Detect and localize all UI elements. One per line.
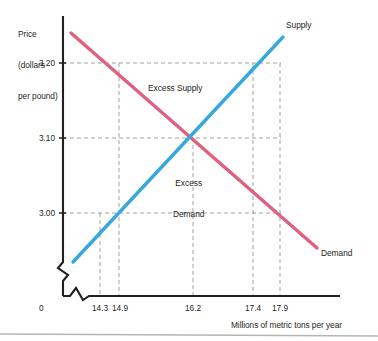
excess-demand-label-line-2: Demand bbox=[173, 209, 204, 219]
x-axis-title: Millions of metric tons per year bbox=[231, 320, 342, 330]
xtick-label-14.9: 14.9 bbox=[106, 303, 134, 313]
origin-label: 0 bbox=[39, 303, 44, 313]
xtick-label-17.9: 17.9 bbox=[266, 303, 294, 313]
y-axis bbox=[58, 16, 68, 296]
x-axis bbox=[63, 288, 340, 300]
excess-demand-label: Excess Demand bbox=[173, 158, 204, 240]
supply-demand-figure: Price (dollars per pound) 3.20 3.10 3.00… bbox=[0, 0, 378, 341]
y-axis-title-line-3: per pound) bbox=[18, 91, 58, 101]
ytick-label-3.10: 3.10 bbox=[23, 133, 55, 143]
xtick-label-17.4: 17.4 bbox=[239, 303, 267, 313]
footer-rule bbox=[0, 334, 378, 336]
demand-curve-label: Demand bbox=[321, 248, 352, 258]
ytick-label-3.00: 3.00 bbox=[23, 208, 55, 218]
excess-supply-label: Excess Supply bbox=[148, 83, 202, 93]
excess-demand-label-line-1: Excess bbox=[173, 178, 204, 188]
y-axis-title-line-1: Price bbox=[18, 29, 58, 39]
supply-curve-label: Supply bbox=[286, 20, 311, 30]
xtick-label-16.2: 16.2 bbox=[179, 303, 207, 313]
ytick-label-3.20: 3.20 bbox=[23, 58, 55, 68]
